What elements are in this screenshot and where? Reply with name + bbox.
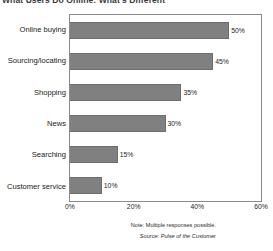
x-axis: 0% 20% 40% 60% — [69, 203, 262, 215]
bar-row: 45% — [70, 46, 261, 77]
chart-page: What Users Do Online: What's Different O… — [0, 0, 273, 251]
category-label: Online buying — [0, 14, 69, 45]
category-label: Customer service — [0, 171, 69, 202]
source-text: Source: Pulse of the Customer — [0, 232, 216, 240]
bar — [70, 177, 102, 194]
bar-value-label: 45% — [215, 58, 229, 65]
bar-row: 15% — [70, 139, 261, 170]
x-tick-label: 20% — [127, 203, 141, 210]
bar-value-label: 15% — [120, 151, 134, 158]
bar-row: 10% — [70, 170, 261, 201]
bar-row: 50% — [70, 15, 261, 46]
bar — [70, 115, 166, 132]
bar-value-label: 30% — [168, 120, 182, 127]
x-tick-label: 0% — [65, 203, 75, 210]
category-axis-labels: Online buying Sourcing/locating Shopping… — [0, 14, 69, 202]
bar-row: 30% — [70, 108, 261, 139]
bars-container: 50% 45% 35% 30% 15% 10% — [70, 15, 261, 201]
bar — [70, 84, 181, 101]
bar — [70, 53, 213, 70]
bar-value-label: 10% — [104, 182, 118, 189]
bar — [70, 22, 229, 39]
category-label: Sourcing/locating — [0, 45, 69, 76]
bar-row: 35% — [70, 77, 261, 108]
bar — [70, 146, 118, 163]
category-label: News — [0, 108, 69, 139]
x-tick-label: 60% — [254, 203, 268, 210]
x-tick-label: 40% — [191, 203, 205, 210]
category-label: Searching — [0, 139, 69, 170]
bar-value-label: 35% — [183, 89, 197, 96]
plot-area: 50% 45% 35% 30% 15% 10% — [69, 14, 262, 202]
footnotes: Note: Multiple responses possible. Sourc… — [0, 221, 264, 240]
category-label: Shopping — [0, 77, 69, 108]
bar-value-label: 50% — [231, 27, 245, 34]
note-text: Note: Multiple responses possible. — [0, 221, 216, 229]
chart-title: What Users Do Online: What's Different — [2, 0, 271, 5]
